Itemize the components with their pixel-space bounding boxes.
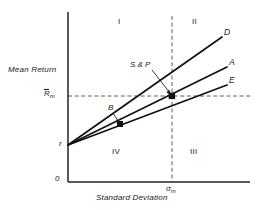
series-line-a (68, 67, 227, 145)
y-axis-title: Mean Return (8, 66, 56, 74)
chart-figure: Mean Return Standard Deviation 0 r Rm σm… (0, 0, 257, 210)
series-line-e (68, 85, 227, 145)
quadrant-label-two: II (192, 18, 197, 26)
x-tick-label-sigmam: σm (166, 185, 176, 193)
series-label-a: A (229, 58, 235, 67)
y-tick-subscript: m (50, 93, 55, 99)
annotation-leader-market (152, 70, 170, 93)
origin-label: 0 (55, 175, 59, 183)
y-tick-label-rm: Rm (44, 90, 55, 98)
x-tick-subscript: m (171, 188, 176, 194)
quadrant-label-four: IV (112, 148, 120, 156)
risk-free-rate-label: r (59, 140, 62, 148)
series-line-d (68, 37, 222, 145)
annotation-label-b: B (108, 104, 113, 112)
x-axis-title: Standard Deviation (96, 194, 168, 202)
series-label-e: E (229, 76, 235, 85)
data-point-market (169, 93, 175, 99)
quadrant-label-three: III (190, 148, 198, 156)
annotation-label-market: S & P (130, 61, 150, 69)
series-label-d: D (224, 28, 230, 37)
chart-canvas (0, 0, 257, 210)
quadrant-label-one: I (118, 18, 121, 26)
y-tick-base: R (44, 90, 50, 98)
data-point-b (117, 121, 123, 127)
